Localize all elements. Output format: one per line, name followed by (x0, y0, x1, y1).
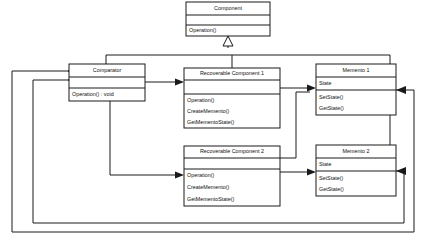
diagram-canvas: Component Operation() Comparator Operati… (0, 0, 433, 241)
class-box-memento-1[interactable]: Memento 1 State SetState() GetState() (316, 64, 396, 115)
comparator-class-name: Comparator (93, 67, 122, 73)
class-box-component[interactable]: Component Operation() (186, 2, 270, 36)
memento2-class-name: Memento 2 (343, 148, 370, 154)
class-box-recoverable-component-2[interactable]: Recoverable Component 2 Operation() Crea… (184, 146, 280, 206)
component-class-name: Component (214, 5, 242, 11)
assoc-comparator-rc1-arrowhead (175, 79, 184, 86)
memento1-operation-1: GetState() (319, 105, 344, 111)
relationship-assoc-rc2-memento1 (280, 92, 310, 158)
rc2-operation-2: GetMementoState() (187, 196, 235, 202)
relationship-assoc-comparator-rc2 (110, 90, 184, 179)
relationship-assoc-comparator-rc1 (145, 79, 184, 86)
component-operation-0: Operation() (189, 27, 216, 33)
assoc-rc2-memento2-arrowhead (307, 169, 316, 176)
assoc-comparator-rc2-arrowhead (175, 172, 184, 179)
rc2-operation-1: CreateMemento() (187, 184, 229, 190)
agg-memento1-arrowhead (396, 86, 406, 94)
rc1-operation-2: GetMementoState() (187, 119, 235, 125)
memento2-attribute-0: State (319, 161, 332, 167)
rc1-class-name: Recoverable Component 1 (200, 70, 264, 76)
relationship-assoc-rc1-memento1 (280, 85, 316, 92)
agg-memento2-arrowhead (396, 167, 406, 175)
assoc-comparator-rc2-line (110, 90, 178, 175)
memento1-class-name: Memento 1 (343, 67, 370, 73)
class-box-memento-2[interactable]: Memento 2 State SetState() GetState() (316, 145, 396, 196)
assoc-rc1-memento1-arrowhead (307, 85, 316, 92)
class-box-recoverable-component-1[interactable]: Recoverable Component 1 Operation() Crea… (184, 68, 280, 128)
relationship-assoc-rc2-memento2 (280, 169, 316, 176)
class-box-comparator[interactable]: Comparator Operation() : void (69, 64, 145, 101)
memento2-operation-0: SetState() (319, 175, 343, 181)
uml-class-diagram: Component Operation() Comparator Operati… (0, 0, 433, 241)
rc2-class-name: Recoverable Component 2 (200, 148, 264, 154)
rc1-operation-0: Operation() (187, 97, 214, 103)
generalization-triangle-icon (223, 36, 233, 46)
rc1-operation-1: CreateMemento() (187, 108, 229, 114)
assoc-rc2-memento1-line (280, 92, 310, 158)
memento1-attribute-0: State (319, 80, 332, 86)
rc2-operation-0: Operation() (187, 172, 214, 178)
memento2-operation-1: GetState() (319, 186, 344, 192)
memento1-operation-0: SetState() (319, 94, 343, 100)
comparator-operation-0: Operation() : void (72, 91, 114, 97)
